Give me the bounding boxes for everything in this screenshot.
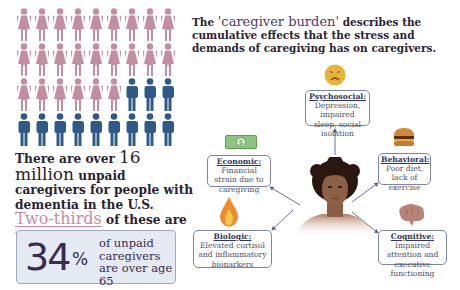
psychosocial-title: Psychosocial:: [308, 92, 367, 101]
svg-text:$: $: [239, 139, 243, 147]
economic-box: Economic: Financial strain due to caregi…: [207, 155, 271, 187]
caregiver-portrait-icon: [288, 157, 382, 243]
cognitive-title: Cognitive:: [381, 232, 444, 241]
behavioral-box: Behavioral: Poor diet, lack of exercise: [378, 153, 431, 185]
biologic-box: Biologic: Elevated cortisol and inflamma…: [193, 230, 272, 268]
behavioral-text: Poor diet, lack of exercise: [386, 164, 423, 191]
cognitive-box: Cognitive: Impaired attention and execut…: [378, 230, 447, 265]
behavioral-title: Behavioral:: [381, 155, 428, 164]
biologic-text: Elevated cortisol and inflammatory biona…: [198, 241, 266, 268]
brain-icon: [396, 203, 426, 227]
economic-title: Economic:: [210, 157, 268, 166]
flame-icon: [218, 196, 240, 228]
biologic-title: Biologic:: [196, 232, 269, 241]
hamburger-icon: [393, 127, 415, 147]
sad-face-emoji-icon: [324, 64, 346, 86]
cognitive-text: Impaired attention and executive functio…: [387, 241, 439, 278]
psychosocial-text: Depression, impaired sleep, social isola…: [314, 101, 361, 138]
dollar-bill-icon: $: [225, 135, 257, 149]
psychosocial-box: Psychosocial: Depression, impaired sleep…: [305, 90, 370, 126]
economic-text: Financial strain due to caregiving: [214, 166, 263, 193]
